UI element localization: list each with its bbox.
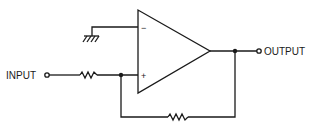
input-resistor [80, 72, 97, 78]
opamp-symbol [138, 10, 210, 93]
ground-icon [83, 36, 99, 42]
output-junction [233, 49, 237, 53]
output-label: OUTPUT [264, 46, 305, 57]
input-label: INPUT [6, 70, 36, 81]
feedback-wire-right [188, 51, 235, 117]
feedback-wire-left [121, 75, 168, 117]
inverting-sign: − [141, 23, 146, 33]
non-inverting-sign: + [141, 71, 146, 81]
input-terminal [45, 73, 49, 77]
output-terminal [257, 49, 261, 53]
feedback-resistor [168, 114, 188, 120]
circuit-diagram: − + INPUT OUTPUT [0, 0, 317, 129]
ground-wire [92, 27, 138, 36]
